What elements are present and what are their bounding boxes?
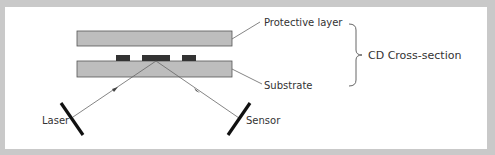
sensor-label: Sensor xyxy=(246,115,281,126)
substrate-leader xyxy=(232,69,262,84)
data-pit-1 xyxy=(116,55,130,61)
cd-diagram: Protective layer Substrate CD Cross-sect… xyxy=(0,0,495,155)
diagram-frame: Protective layer Substrate CD Cross-sect… xyxy=(0,0,495,155)
group-brace-icon xyxy=(349,24,362,86)
protective-layer-leader xyxy=(232,22,260,39)
protective-layer-label: Protective layer xyxy=(264,17,343,28)
data-pit-3 xyxy=(182,55,196,61)
cd-cross-section-label: CD Cross-section xyxy=(368,49,461,62)
beam-arrow-up-icon xyxy=(112,87,118,92)
substrate-label: Substrate xyxy=(264,80,312,91)
laser-label: Laser xyxy=(42,115,70,126)
data-pit-2 xyxy=(142,55,170,61)
protective-layer xyxy=(77,31,232,46)
substrate-layer xyxy=(77,61,232,77)
